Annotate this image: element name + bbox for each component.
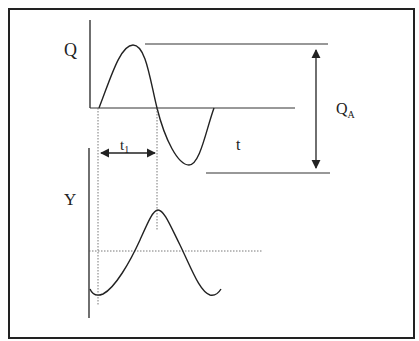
q-axis-label: Q xyxy=(64,40,77,60)
diagram-canvas: Q Y t t1 QA xyxy=(0,0,419,341)
amplitude-label: QA xyxy=(336,100,356,120)
y-wave xyxy=(90,210,221,295)
q-axes xyxy=(90,20,295,108)
time-label: t xyxy=(236,136,241,153)
t1-label: t1 xyxy=(120,137,129,155)
y-axis-label: Y xyxy=(64,190,76,209)
q-wave xyxy=(99,45,214,165)
